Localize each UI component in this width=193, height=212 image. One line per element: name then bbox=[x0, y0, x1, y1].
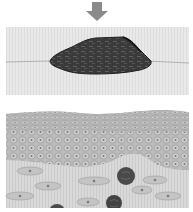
pressure-arrow-icon bbox=[86, 2, 108, 21]
skin-cross-section-figure bbox=[0, 0, 193, 212]
bottom-margin bbox=[0, 208, 193, 212]
figure-canvas bbox=[0, 0, 193, 212]
epidermis-flattened-cells bbox=[6, 110, 189, 132]
